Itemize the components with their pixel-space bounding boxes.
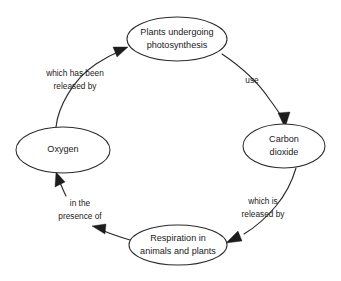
node-oxygen[interactable]: Oxygen: [16, 127, 110, 173]
node-oxygen-label: Oxygen: [47, 144, 78, 154]
node-respiration[interactable]: Respiration in animals and plants: [129, 225, 227, 265]
edge-label-oxygen-to-plants: which has been released by: [45, 68, 104, 91]
edge-label-respiration-to-oxygen-line1: in the: [70, 198, 91, 208]
edge-label-oxygen-to-plants-line1: which has been: [45, 68, 104, 78]
edge-label-carbon-dioxide-to-respiration: which is released by: [242, 196, 286, 219]
node-carbon-dioxide[interactable]: Carbon dioxide: [243, 124, 325, 168]
edge-label-carbon-dioxide-to-respiration-line1: which is: [247, 196, 278, 206]
node-respiration-shape[interactable]: [129, 225, 227, 265]
node-plants-label-line1: Plants undergoing: [140, 27, 213, 37]
node-carbon-dioxide-label-line1: Carbon: [269, 134, 299, 144]
edge-label-respiration-to-oxygen-line2: presence of: [58, 211, 102, 221]
node-plants-label-line2: photosynthesis: [147, 40, 208, 50]
node-plants-shape[interactable]: [127, 17, 227, 61]
cycle-diagram: Plants undergoing photosynthesis Carbon …: [0, 0, 341, 281]
edge-plants-to-carbon-dioxide: [222, 54, 290, 128]
edge-plants-to-carbon-dioxide-line: [222, 54, 283, 119]
edge-respiration-to-oxygen-line: [102, 230, 130, 240]
edge-respiration-to-oxygen-arrowhead-upper: [55, 172, 65, 187]
edge-label-plants-to-carbon-dioxide: use: [245, 75, 259, 85]
edge-carbon-dioxide-to-respiration-arrowhead: [226, 231, 242, 243]
edge-respiration-to-oxygen-arrowhead: [92, 224, 106, 234]
node-carbon-dioxide-shape[interactable]: [243, 124, 325, 168]
node-carbon-dioxide-label-line2: dioxide: [270, 147, 299, 157]
node-respiration-label-line1: Respiration in: [150, 233, 206, 243]
node-plants[interactable]: Plants undergoing photosynthesis: [127, 17, 227, 61]
edge-label-carbon-dioxide-to-respiration-line2: released by: [242, 209, 286, 219]
edge-oxygen-to-plants-arrowhead: [113, 47, 128, 57]
edge-label-oxygen-to-plants-line2: released by: [54, 81, 98, 91]
edge-respiration-to-oxygen: [55, 172, 130, 240]
node-respiration-label-line2: animals and plants: [140, 246, 216, 256]
cycle-diagram-canvas: Plants undergoing photosynthesis Carbon …: [0, 0, 341, 281]
edge-label-respiration-to-oxygen: in the presence of: [58, 198, 102, 221]
edge-label-plants-to-carbon-dioxide-line1: use: [245, 75, 259, 85]
